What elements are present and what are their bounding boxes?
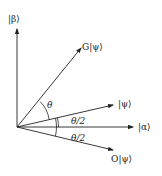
half-theta-upper-label: θ/2 [71,116,85,126]
psi-vector [17,105,113,127]
half-theta-arc-upper [56,118,57,127]
g-psi-label: G|ψ⟩ [82,42,103,53]
beta-axis-label: |β⟩ [8,14,20,25]
o-psi-label: O|ψ⟩ [111,154,132,165]
half-theta-arc-upper-2 [58,118,59,127]
theta-label: θ [47,100,53,110]
half-theta-arc-lower [55,127,56,136]
alpha-axis-label: |α⟩ [138,122,151,133]
grover-rotation-diagram: |β⟩ |α⟩ |ψ⟩ G|ψ⟩ O|ψ⟩ θ θ/2 θ/2 [0,0,162,176]
half-theta-lower-label: θ/2 [71,133,85,143]
o-psi-vector [17,127,113,150]
psi-label: |ψ⟩ [118,99,132,110]
